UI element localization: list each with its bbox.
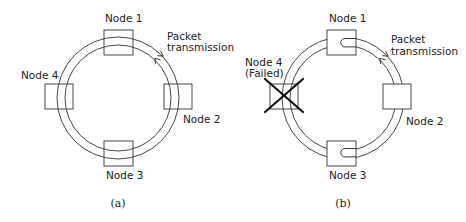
node-4-box	[45, 84, 73, 109]
node-3-label: Node 3	[329, 169, 366, 181]
node-1-box	[327, 30, 356, 55]
packet-annotation-line2: transmission	[391, 45, 458, 57]
dual-ring-diagram: Node 1 Node 2 Node 3 Node 4 Packet trans…	[0, 0, 466, 222]
caption-a: (a)	[110, 197, 125, 210]
panel-b: Node 1 Node 2 Node 3 Node 4 (Failed) Pac…	[245, 12, 458, 210]
node-4-label: Node 4	[21, 69, 59, 81]
packet-annotation-line1: Packet	[391, 33, 425, 45]
node-2-box	[383, 84, 411, 109]
packet-annotation-line2: transmission	[167, 41, 234, 53]
node-2-label: Node 2	[406, 115, 443, 127]
node-1-box	[104, 30, 133, 55]
panel-a: Node 1 Node 2 Node 3 Node 4 Packet trans…	[21, 12, 234, 210]
caption-b: (b)	[335, 197, 351, 210]
node-1-label: Node 1	[105, 12, 142, 24]
node-3-box	[327, 141, 356, 166]
node-1-label: Node 1	[329, 12, 366, 24]
node-3-box	[104, 141, 133, 166]
node-4-status-label: (Failed)	[245, 67, 284, 79]
node-3-label: Node 3	[106, 169, 143, 181]
node-2-label: Node 2	[183, 113, 220, 125]
